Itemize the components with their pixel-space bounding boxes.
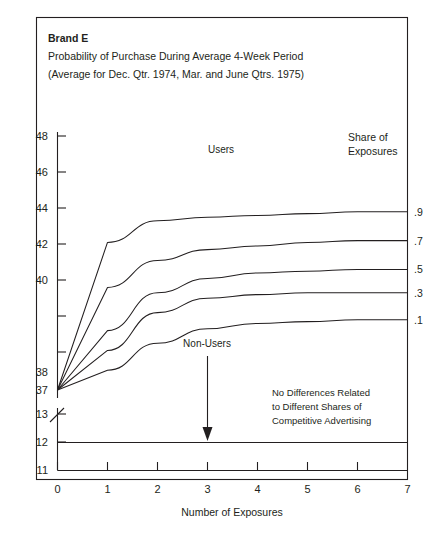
y-tick-label-44: 44 <box>36 202 48 214</box>
users-group-label: Users <box>208 144 234 155</box>
subtitle-line-1: Probability of Purchase During Average 4… <box>48 50 303 62</box>
subtitle-line-2: (Average for Dec. Qtr. 1974, Mar. and Ju… <box>48 68 304 80</box>
y-tick-label-11: 11 <box>37 464 48 476</box>
y-tick-label-13: 13 <box>36 408 48 420</box>
y-tick-label-48: 48 <box>36 130 48 142</box>
series-line-p9 <box>58 212 408 390</box>
chart-figure: Brand E Probability of Purchase During A… <box>0 0 439 533</box>
y-ticks-upper <box>58 136 67 352</box>
y-tick-label-12: 12 <box>36 436 48 448</box>
y-tick-label-37: 37 <box>36 384 48 396</box>
x-tick-label-2: 2 <box>154 483 160 495</box>
share-of-exposures-label-line-1: Share of <box>348 131 388 143</box>
y-tick-label-42: 42 <box>36 238 48 250</box>
y-ticks-lower <box>58 414 67 442</box>
y-tick-label-38: 38 <box>36 366 48 378</box>
note-line-1: No Differences Related <box>272 387 370 398</box>
y-tick-label-46: 46 <box>36 166 48 178</box>
note-line-3: Competitive Advertising <box>272 415 371 426</box>
x-tick-label-7: 7 <box>404 483 410 495</box>
series-label-p9: .9 <box>414 206 423 218</box>
x-tick-label-4: 4 <box>254 483 260 495</box>
x-tick-label-1: 1 <box>104 483 110 495</box>
x-tick-label-3: 3 <box>204 483 210 495</box>
note-line-2: to Different Shares of <box>272 401 362 412</box>
x-tick-label-5: 5 <box>304 483 310 495</box>
x-ticks <box>58 462 358 471</box>
nonusers-label: Non-Users <box>183 338 231 349</box>
series-label-p3: .3 <box>414 287 423 299</box>
brand-title: Brand E <box>48 32 88 44</box>
y-tick-label-40: 40 <box>36 274 48 286</box>
x-axis-title: Number of Exposures <box>181 506 283 518</box>
x-tick-label-6: 6 <box>354 483 360 495</box>
series-label-p5: .5 <box>414 263 423 275</box>
series-label-p7: .7 <box>414 235 423 247</box>
series-value-labels: .9.7.5.3.1 <box>414 206 423 326</box>
series-line-p3 <box>58 293 408 390</box>
series-line-p7 <box>58 241 408 390</box>
users-series-group <box>58 212 408 390</box>
nonusers-arrow <box>203 356 213 441</box>
series-label-p1: .1 <box>414 314 423 326</box>
x-tick-label-0: 0 <box>54 483 60 495</box>
share-of-exposures-label-line-2: Exposures <box>348 145 398 157</box>
